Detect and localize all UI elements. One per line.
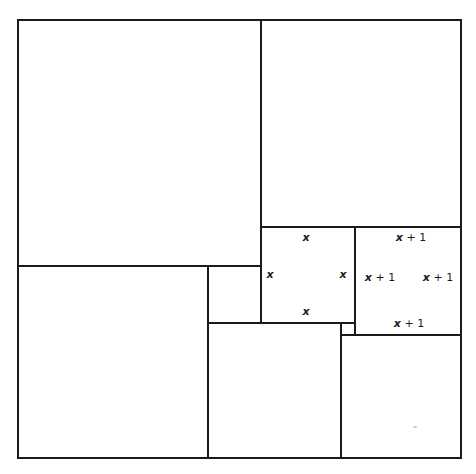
label-x1-bottom: x + 1 <box>394 317 424 330</box>
label-x1-left: x + 1 <box>365 271 395 284</box>
label-x1-right: x + 1 <box>423 271 453 284</box>
label-x-left: x <box>266 268 273 281</box>
label-x-top: x <box>302 231 309 244</box>
squared-square-diagram: x x x x x + 1 x + 1 x + 1 x + 1 <box>0 0 476 474</box>
scan-speck <box>413 426 417 428</box>
label-x-bottom: x <box>302 305 309 318</box>
label-x1-top: x + 1 <box>396 231 426 244</box>
bottom-left-square <box>17 265 209 459</box>
bottom-middle-square <box>207 322 342 459</box>
top-right-square <box>260 19 462 228</box>
top-left-square <box>17 19 262 267</box>
small-middle-square <box>207 265 262 324</box>
bottom-right-square <box>340 334 462 459</box>
tiny-square <box>340 322 356 336</box>
label-x-right: x <box>339 268 346 281</box>
